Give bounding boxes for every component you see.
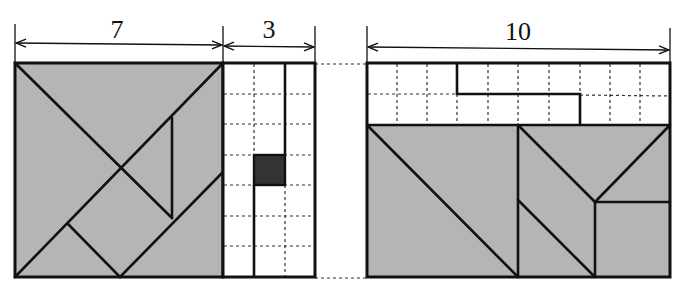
- width-label-3: 3: [263, 15, 276, 44]
- dimension-7: 7: [15, 15, 223, 63]
- left-tangram-square: [15, 63, 223, 277]
- width-label-10: 10: [505, 17, 531, 46]
- width-label-7: 7: [111, 15, 124, 44]
- guide-lines: [315, 64, 367, 278]
- right-grid-top: [367, 63, 670, 125]
- right-tangram-rectangle: [367, 125, 670, 277]
- dimension-10: 10: [367, 17, 670, 63]
- left-grid-strip: [223, 63, 315, 277]
- tangram-diagram: 7 3 10: [0, 0, 679, 289]
- black-cell: [254, 155, 285, 185]
- dimension-3: 3: [224, 15, 315, 63]
